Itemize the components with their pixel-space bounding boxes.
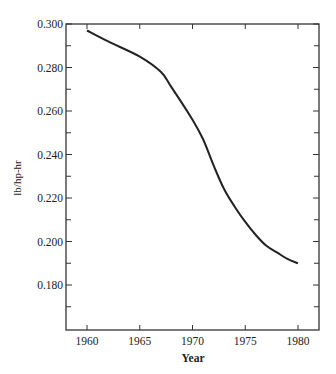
plot-border — [66, 24, 319, 330]
line-chart: 0.3000.2800.2600.2400.2200.2000.180 1960… — [0, 0, 336, 374]
y-tick-label: 0.260 — [37, 105, 63, 117]
x-tick-label: 1965 — [128, 335, 151, 347]
x-axis-title: Year — [182, 352, 205, 364]
y-tick-label: 0.280 — [37, 62, 63, 74]
y-tick-label: 0.240 — [37, 149, 63, 161]
y-tick-label: 0.200 — [37, 236, 63, 248]
x-tick-label: 1980 — [287, 335, 310, 347]
x-tick-label: 1970 — [181, 335, 204, 347]
x-tick-label: 1960 — [76, 335, 99, 347]
y-tick-label: 0.220 — [37, 192, 63, 204]
y-tick-label: 0.300 — [37, 18, 63, 30]
y-tick-label: 0.180 — [37, 279, 63, 291]
y-axis-title: lb/hp-hr — [11, 160, 23, 196]
series-line — [87, 31, 298, 264]
plot-frame — [66, 24, 319, 330]
x-axis-ticks: 19601965197019751980 — [76, 24, 310, 347]
y-axis-ticks: 0.3000.2800.2600.2400.2200.2000.180 — [37, 18, 319, 307]
x-tick-label: 1975 — [234, 335, 257, 347]
